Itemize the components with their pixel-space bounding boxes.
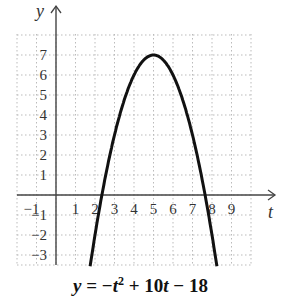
svg-text:7: 7 [40, 47, 48, 63]
svg-text:1: 1 [40, 167, 48, 183]
svg-text:−3: −3 [31, 247, 47, 263]
svg-text:6: 6 [169, 201, 177, 217]
svg-text:−2: −2 [31, 227, 47, 243]
svg-text:7: 7 [189, 201, 197, 217]
svg-text:9: 9 [228, 201, 236, 217]
svg-text:4: 4 [40, 107, 48, 123]
grid-lines [17, 34, 251, 265]
svg-text:2: 2 [40, 147, 48, 163]
eq-part: = − [82, 275, 113, 296]
equation-caption: y = −t2 + 10t − 18 [0, 274, 281, 297]
eq-lhs: y [73, 275, 81, 296]
svg-text:−1: −1 [31, 207, 47, 223]
svg-text:5: 5 [150, 201, 158, 217]
svg-text:1: 1 [72, 201, 80, 217]
svg-text:3: 3 [40, 127, 48, 143]
svg-text:5: 5 [40, 87, 48, 103]
svg-text:4: 4 [130, 201, 138, 217]
graph-plot: −11234567897654321−1−2−3 y t [0, 0, 281, 301]
x-axis-label: t [268, 202, 274, 222]
svg-text:3: 3 [111, 201, 119, 217]
y-axis-label: y [34, 1, 44, 21]
eq-part3: − 18 [169, 275, 208, 296]
eq-part2: + 10 [124, 275, 163, 296]
svg-text:6: 6 [40, 67, 48, 83]
